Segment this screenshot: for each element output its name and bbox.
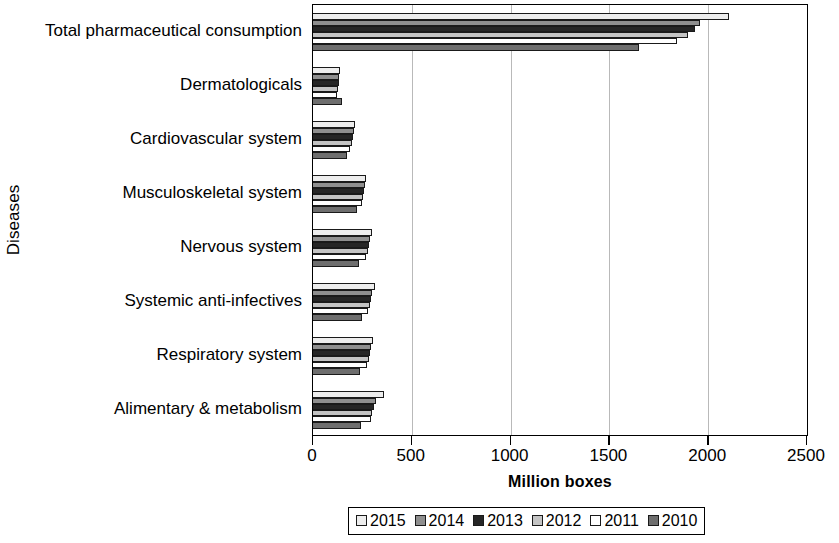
bar-group [313,329,807,383]
x-axis-ticks [312,436,808,445]
x-tick [608,436,609,445]
bar-group [313,5,807,59]
x-axis-tick-labels: 05001000150020002500 [252,446,839,470]
bar [313,152,347,158]
plot-area [312,4,808,436]
x-tick [806,436,807,445]
legend-swatch [590,515,601,526]
bar [313,44,639,50]
category-label: Alimentary & metabolism [20,399,302,418]
x-tick [312,436,313,445]
legend-swatch [415,515,426,526]
bar [313,368,360,374]
bar [313,260,359,266]
x-axis-title: Million boxes [312,473,808,491]
legend-entry: 2010 [648,513,698,529]
legend-swatch [356,515,367,526]
bar-group [313,113,807,167]
legend-swatch [532,515,543,526]
bar [313,314,362,320]
bar-group [313,59,807,113]
legend-entry: 2014 [415,513,465,529]
legend-label: 2013 [487,513,523,529]
legend-label: 2014 [429,513,465,529]
x-tick [510,436,511,445]
legend-swatch [473,515,484,526]
category-label: Systemic anti-infectives [20,291,302,310]
bar [313,98,342,104]
category-label: Cardiovascular system [20,129,302,148]
category-label: Respiratory system [20,345,302,364]
bars-layer [313,5,807,435]
bar-group [313,275,807,329]
legend-label: 2011 [604,513,638,529]
category-label: Musculoskeletal system [20,183,302,202]
category-label: Total pharmaceutical consumption [20,21,302,40]
category-label: Dermatologicals [20,75,302,94]
x-tick-label: 2500 [746,446,839,466]
legend-entry: 2012 [532,513,582,529]
legend-label: 2012 [546,513,582,529]
category-axis-labels: Total pharmaceutical consumptionDermatol… [20,4,308,436]
legend-label: 2010 [662,513,698,529]
legend-entry: 2013 [473,513,523,529]
x-tick [411,436,412,445]
bar-chart: Diseases Total pharmaceutical consumptio… [0,0,839,543]
bar-group [313,167,807,221]
legend-swatch [648,515,659,526]
legend-entry: 2011 [590,513,638,529]
legend-entry: 2015 [356,513,406,529]
bar [313,206,357,212]
legend: 201520142013201220112010 [348,507,705,535]
legend-label: 2015 [370,513,406,529]
x-tick [707,436,708,445]
bar [313,422,361,428]
bar-group [313,221,807,275]
bar-group [313,383,807,437]
category-label: Nervous system [20,237,302,256]
